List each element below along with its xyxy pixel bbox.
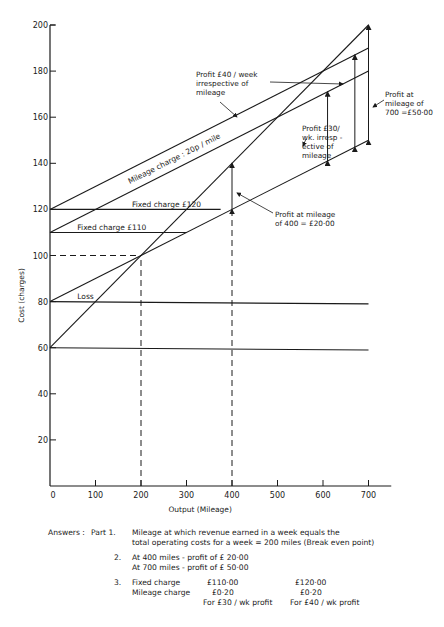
y-axis-label: Cost (charges)	[17, 268, 26, 323]
y-tick-label: 120	[33, 205, 48, 214]
profit-30-annotation: wk. irresp -	[302, 133, 343, 142]
part2-line1: At 400 miles - profit of £ 20·00	[132, 553, 249, 563]
answers-heading: Answers :	[48, 528, 85, 538]
mileage-charge-a: £0·20	[212, 588, 234, 598]
y-tick-label: 40	[38, 390, 48, 399]
series-line	[50, 348, 369, 350]
x-tick-label: 700	[361, 491, 376, 500]
part2-line2: At 700 miles - profit of £ 50·00	[132, 563, 249, 573]
x-tick-label: 0	[50, 491, 55, 500]
part1-line1: Mileage at which revenue earned in a wee…	[132, 528, 340, 538]
profit-40-annotation: Profit £40 / week	[196, 70, 258, 79]
x-axis-label: Output (Mileage)	[168, 505, 232, 514]
profit-400-annotation: of 400 = £20·00	[275, 219, 335, 228]
profit-700-annotation: 700 =£50·00	[385, 108, 433, 117]
y-tick-label: 140	[33, 159, 48, 168]
fixed-charge-label: Fixed charge	[132, 578, 180, 588]
caption-30: For £30 / wk profit	[203, 598, 272, 608]
y-tick-label: 60	[38, 344, 48, 353]
y-tick-label: 80	[38, 298, 48, 307]
fixed-charge-110-label: Fixed charge £110	[77, 223, 146, 232]
leader-line	[373, 100, 384, 107]
profit-30-annotation: mileage	[302, 151, 332, 160]
fixed-charge-a: £110·00	[207, 578, 238, 588]
y-tick-label: 20	[38, 436, 48, 445]
profit-40-annotation: irrespective of	[196, 79, 249, 88]
y-tick-label: 100	[33, 252, 48, 261]
y-tick-label: 200	[33, 21, 48, 30]
x-tick-label: 500	[270, 491, 285, 500]
series-line	[50, 302, 369, 304]
fixed-charge-120-label: Fixed charge £120	[132, 200, 201, 209]
profit-30-annotation: Profit £30/	[302, 124, 340, 133]
part2-label: 2.	[114, 553, 121, 563]
y-tick-label: 180	[33, 67, 48, 76]
caption-40: For £40 / wk profit	[290, 598, 359, 608]
loss-label: Loss	[77, 292, 94, 301]
x-tick-label: 100	[88, 491, 103, 500]
mileage-charge-label: Mileage charge : 20p / mile	[126, 131, 222, 185]
x-tick-label: 200	[133, 491, 148, 500]
cost-chart: 2040608010012014016018020001002003004005…	[0, 0, 444, 520]
x-tick-label: 400	[224, 491, 239, 500]
leader-line	[237, 193, 273, 213]
profit-30-annotation: ective of	[302, 142, 334, 151]
leader-line	[220, 102, 237, 117]
part1-label: Part 1.	[91, 528, 116, 538]
leader-line	[270, 82, 343, 84]
mileage-charge-label: Mileage charge	[132, 588, 190, 598]
profit-400-annotation: Profit at mileage	[275, 210, 336, 219]
y-tick-label: 160	[33, 113, 48, 122]
part3-label: 3.	[114, 578, 121, 588]
profit-700-annotation: mileage of	[385, 99, 424, 108]
fixed-charge-b: £120·00	[295, 578, 326, 588]
x-tick-label: 300	[179, 491, 194, 500]
mileage-charge-b: £0·20	[300, 588, 322, 598]
profit-700-annotation: Profit at	[385, 90, 414, 99]
part1-line2: total operating costs for a week = 200 m…	[132, 538, 374, 548]
profit-40-annotation: mileage	[196, 88, 226, 97]
x-tick-label: 600	[315, 491, 330, 500]
